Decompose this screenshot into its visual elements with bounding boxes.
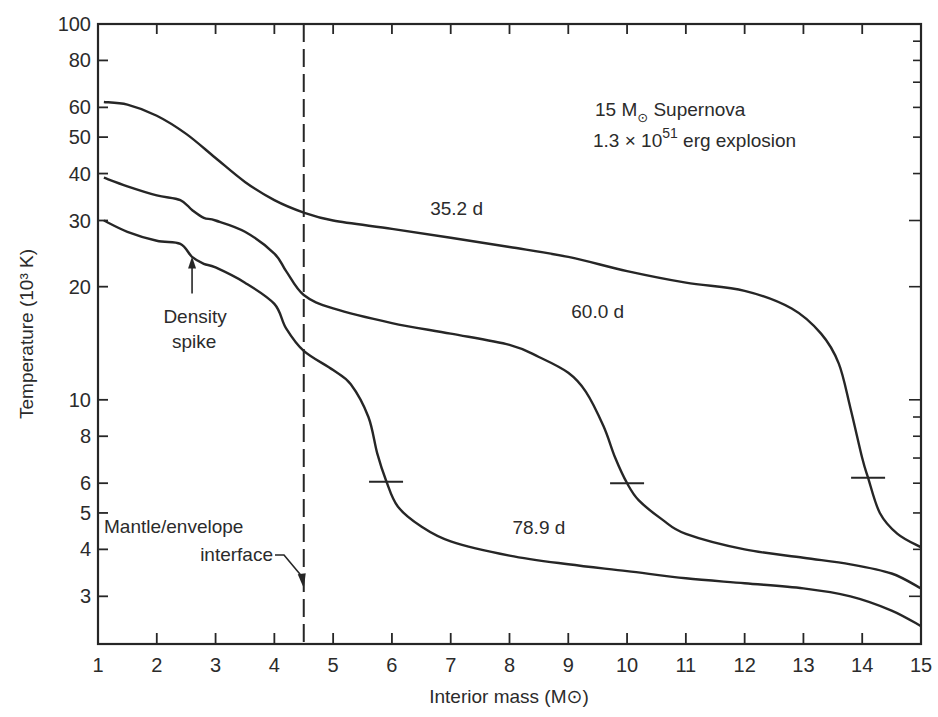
y-tick-label: 60	[69, 96, 91, 118]
y-tick-label: 30	[69, 210, 91, 232]
y-tick-label: 10	[69, 389, 91, 411]
y-tick-label: 20	[69, 276, 91, 298]
x-tick-label: 1	[92, 654, 103, 676]
x-tick-label: 9	[563, 654, 574, 676]
chart-title-block: 15 M⊙ Supernova 1.3 × 1051 erg explosion	[593, 99, 796, 151]
y-tick-label: 40	[69, 163, 91, 185]
chart-subtitle: 1.3 × 1051 erg explosion	[593, 125, 796, 151]
x-tick-label: 7	[445, 654, 456, 676]
ionization-front-markers	[369, 478, 885, 483]
mantle-envelope-label-line2: interface	[200, 544, 273, 565]
x-axis-label: Interior mass (M⊙)	[429, 686, 589, 707]
x-tick-label: 12	[734, 654, 756, 676]
y-axis-label: Temperature (10³ K)	[16, 249, 37, 419]
y-tick-label: 3	[80, 585, 91, 607]
y-tick-label: 50	[69, 126, 91, 148]
x-tick-label: 8	[504, 654, 515, 676]
x-axis-ticks: 123456789101112131415	[92, 24, 932, 676]
series-label: 35.2 d	[430, 198, 483, 219]
x-tick-label: 11	[675, 654, 696, 676]
x-tick-label: 6	[386, 654, 397, 676]
interface-arrow-shaft	[275, 555, 302, 576]
series-label: 60.0 d	[571, 301, 624, 322]
x-tick-label: 3	[210, 654, 221, 676]
y-tick-label: 100	[58, 13, 91, 35]
chart-title: 15 M⊙ Supernova	[595, 99, 746, 125]
x-tick-label: 4	[269, 654, 280, 676]
x-tick-label: 5	[328, 654, 339, 676]
x-tick-label: 13	[792, 654, 814, 676]
curve-78-9-d	[104, 221, 921, 627]
y-tick-label: 5	[80, 502, 91, 524]
x-tick-label: 14	[851, 654, 873, 676]
y-tick-label: 80	[69, 49, 91, 71]
y-tick-label: 6	[80, 472, 91, 494]
y-tick-label: 8	[80, 425, 91, 447]
x-tick-label: 15	[910, 654, 932, 676]
mantle-envelope-label: Mantle/envelope	[104, 516, 243, 537]
series-label: 78.9 d	[512, 517, 565, 538]
x-tick-label: 10	[616, 654, 638, 676]
density-spike-label-line2: spike	[172, 331, 216, 352]
temperature-profile-chart: 3456810203040506080100 12345678910111213…	[0, 0, 938, 717]
y-tick-label: 4	[80, 538, 91, 560]
density-spike-label: Density	[163, 306, 227, 327]
x-tick-label: 2	[151, 654, 162, 676]
